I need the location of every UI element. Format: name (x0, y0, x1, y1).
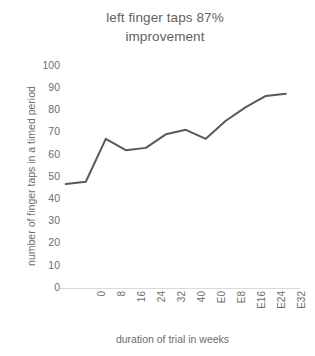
x-tick-label: E24 (276, 291, 287, 327)
x-axis-tick-labels: 0 8 16 24 32 40 E0 E8 E16 E24 E32 E40 (60, 291, 300, 327)
y-tick-label: 90 (36, 82, 60, 93)
y-tick-label: 30 (36, 215, 60, 226)
x-tick-label: E32 (296, 291, 307, 327)
y-axis-tick-labels: 100 90 80 70 60 50 40 30 20 10 0 (36, 60, 60, 294)
x-tick-label: 16 (136, 291, 147, 327)
x-axis-title: duration of trial in weeks (45, 333, 300, 345)
y-tick-label: 50 (36, 171, 60, 182)
x-tick-label: 0 (96, 291, 107, 327)
x-tick-label: 32 (176, 291, 187, 327)
plot-area (60, 62, 300, 288)
y-tick-label: 70 (36, 126, 60, 137)
y-tick-label: 60 (36, 149, 60, 160)
chart-container: left finger taps 87% improvement number … (0, 0, 315, 356)
y-tick-label: 10 (36, 260, 60, 271)
x-tick-label: E0 (216, 291, 227, 327)
x-tick-label: E16 (256, 291, 267, 327)
x-tick-label: 40 (196, 291, 207, 327)
y-tick-label: 0 (36, 282, 60, 293)
y-tick-label: 20 (36, 237, 60, 248)
x-tick-label: E8 (236, 291, 247, 327)
line-series-path (66, 94, 286, 184)
y-tick-label: 100 (36, 60, 60, 71)
x-axis-line (60, 288, 300, 289)
x-tick-label: 8 (116, 291, 127, 327)
chart-title: left finger taps 87% improvement (30, 8, 300, 46)
x-tick-label: 24 (156, 291, 167, 327)
line-series-svg (60, 62, 300, 288)
y-tick-label: 40 (36, 193, 60, 204)
y-tick-label: 80 (36, 104, 60, 115)
